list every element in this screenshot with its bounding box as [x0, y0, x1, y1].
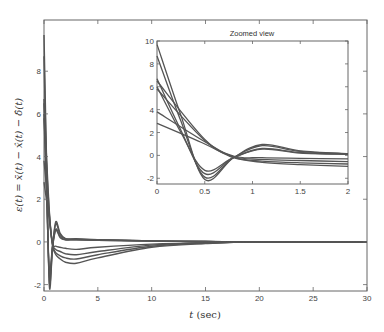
x-axis-label: t (sec)	[189, 309, 221, 320]
x-tick-label: 30	[363, 294, 372, 303]
inset-plot-frame	[157, 41, 348, 184]
y-tick-label: 0	[37, 238, 42, 247]
x-tick-label: 5	[96, 294, 101, 303]
x-tick-label: 25	[309, 294, 318, 303]
y-tick-label: 2	[150, 129, 155, 138]
y-tick-label: 0	[150, 151, 155, 160]
y-tick-label: 8	[150, 60, 155, 69]
y-axis-label: ε(t) = x̄(t) − x̂(t) − δ̂(t)	[13, 98, 24, 212]
inset-title: Zoomed view	[230, 29, 275, 38]
y-tick-label: 6	[37, 110, 42, 119]
x-tick-label: 20	[255, 294, 264, 303]
x-tick-label: 1	[250, 187, 255, 196]
y-tick-label: 10	[145, 37, 154, 46]
x-tick-label: 0	[42, 294, 47, 303]
y-tick-label: 6	[150, 83, 155, 92]
x-tick-label: 0.5	[199, 187, 211, 196]
x-tick-label: 10	[147, 294, 156, 303]
y-tick-label: -2	[147, 174, 155, 183]
inset-axes: Zoomed view 00.511.52 -20246810	[145, 29, 351, 196]
x-tick-label: 1.5	[295, 187, 307, 196]
y-tick-label: 4	[150, 106, 155, 115]
figure: 051015202530 -202468 t (sec) ε(t) = x̄(t…	[0, 0, 384, 332]
x-tick-label: 2	[346, 187, 351, 196]
y-tick-label: 2	[37, 195, 42, 204]
y-tick-label: 8	[37, 67, 42, 76]
x-tick-label: 0	[155, 187, 160, 196]
y-tick-label: -2	[34, 281, 42, 290]
x-tick-label: 15	[201, 294, 210, 303]
y-tick-label: 4	[37, 153, 42, 162]
